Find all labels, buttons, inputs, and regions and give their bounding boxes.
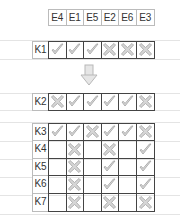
cross-icon: [102, 142, 117, 157]
row-label: K5: [32, 159, 48, 177]
grid-cell: [67, 42, 85, 58]
grid-cell: [119, 124, 137, 140]
column-label: E2: [102, 10, 120, 25]
grid-cell: [119, 42, 137, 58]
row-cells: [48, 194, 155, 212]
check-icon: [102, 177, 117, 192]
grid-cell: [67, 124, 85, 140]
cross-icon: [138, 94, 153, 109]
cross-icon: [67, 177, 82, 192]
grid-row: K6: [32, 176, 155, 194]
grid-row: K7: [32, 194, 155, 212]
cross-icon: [67, 159, 82, 174]
grid-cell: [119, 159, 137, 176]
cross-icon: [120, 42, 135, 57]
grid-cell: [49, 159, 67, 176]
check-icon: [50, 124, 65, 139]
row-cells: [48, 93, 155, 111]
grid-cell: [67, 159, 85, 176]
row-cells: [48, 123, 155, 141]
grid-cell: [119, 194, 137, 211]
cross-icon: [138, 42, 153, 57]
column-label: E3: [137, 10, 155, 25]
row-label: K6: [32, 176, 48, 194]
grid-cell: [49, 176, 67, 193]
grid-cell: [84, 159, 102, 176]
grid-k1: K1: [32, 41, 155, 59]
grid-cell: [137, 94, 155, 110]
grid-cell: [49, 42, 67, 58]
grid-cell: [102, 176, 120, 193]
guide-line: [0, 59, 180, 60]
check-icon: [102, 159, 117, 174]
check-icon: [138, 177, 153, 192]
grid-cell: [102, 94, 120, 110]
check-icon: [120, 94, 135, 109]
column-label: E5: [84, 10, 102, 25]
grid-cell: [49, 94, 67, 110]
row-cells: [48, 176, 155, 194]
check-icon: [50, 42, 65, 57]
grid-cell: [84, 42, 102, 58]
row-label: K4: [32, 141, 48, 159]
cross-icon: [138, 195, 153, 210]
down-arrow-icon: [80, 64, 98, 86]
grid-cell: [137, 194, 155, 211]
grid-cell: [84, 176, 102, 193]
guide-line: [0, 214, 180, 215]
grid-k3-k7: K3K4K5K6K7: [32, 123, 155, 212]
grid-cell: [49, 124, 67, 140]
row-label: K1: [32, 41, 48, 59]
grid-cell: [119, 141, 137, 158]
column-label: E1: [67, 10, 85, 25]
cross-icon: [102, 42, 117, 57]
grid-cell: [119, 94, 137, 110]
check-icon: [138, 142, 153, 157]
row-label: K7: [32, 194, 48, 212]
check-icon: [67, 94, 82, 109]
grid-cell: [137, 42, 155, 58]
cross-icon: [67, 142, 82, 157]
check-icon: [85, 42, 100, 57]
check-icon: [85, 94, 100, 109]
grid-cell: [67, 94, 85, 110]
row-cells: [48, 141, 155, 159]
grid-cell: [84, 124, 102, 140]
cross-icon: [85, 124, 100, 139]
cross-icon: [67, 195, 82, 210]
grid-cell: [119, 176, 137, 193]
check-icon: [120, 124, 135, 139]
grid-cell: [49, 141, 67, 158]
check-icon: [138, 159, 153, 174]
check-icon: [67, 42, 82, 57]
cross-icon: [50, 94, 65, 109]
grid-cell: [49, 194, 67, 211]
grid-k2: K2: [32, 93, 155, 111]
grid-cell: [102, 141, 120, 158]
column-label: E6: [119, 10, 137, 25]
grid-cell: [102, 124, 120, 140]
grid-cell: [102, 42, 120, 58]
grid-row: K1: [32, 41, 155, 59]
grid-row: K4: [32, 141, 155, 159]
grid-row: K2: [32, 93, 155, 111]
grid-cell: [84, 94, 102, 110]
row-label: K2: [32, 93, 48, 111]
cross-icon: [102, 195, 117, 210]
grid-cell: [67, 194, 85, 211]
grid-row: K5: [32, 159, 155, 177]
check-icon: [102, 124, 117, 139]
grid-cell: [137, 176, 155, 193]
grid-cell: [84, 194, 102, 211]
check-icon: [102, 94, 117, 109]
grid-cell: [67, 141, 85, 158]
check-icon: [67, 124, 82, 139]
column-header: E4 E1 E5 E2 E6 E3: [48, 9, 155, 26]
grid-cell: [102, 159, 120, 176]
row-cells: [48, 41, 155, 59]
grid-cell: [137, 124, 155, 140]
grid-cell: [102, 194, 120, 211]
grid-cell: [84, 141, 102, 158]
row-cells: [48, 159, 155, 177]
grid-row: K3: [32, 123, 155, 141]
